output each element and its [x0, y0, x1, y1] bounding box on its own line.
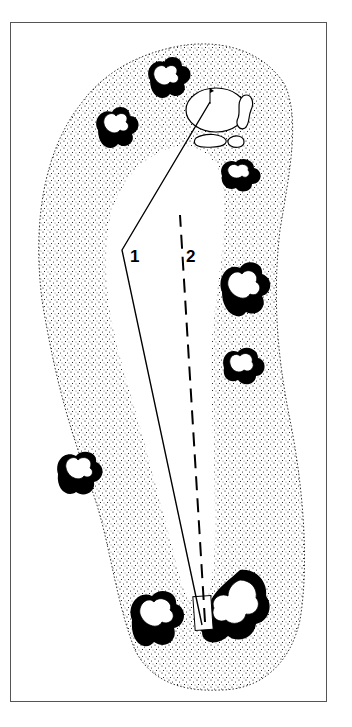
golf-hole-diagram: 1 2	[0, 0, 352, 727]
route-2-label: 2	[186, 247, 195, 266]
tee-box	[193, 595, 213, 630]
bunker	[228, 136, 244, 147]
bunker	[194, 134, 226, 147]
route-1-label: 1	[130, 247, 139, 266]
